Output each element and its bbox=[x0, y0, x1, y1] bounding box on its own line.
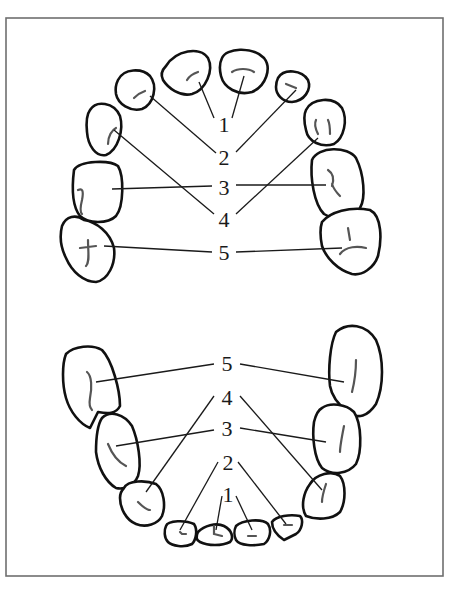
dental-arch-diagram: 1 2 3 4 5 5 4 3 2 1 bbox=[0, 0, 456, 590]
upper-canine-right bbox=[305, 100, 345, 145]
upper-label-4: 4 bbox=[219, 207, 230, 232]
upper-label-1: 1 bbox=[219, 112, 230, 137]
upper-lateral-incisor-left bbox=[116, 70, 155, 109]
upper-central-incisor-right bbox=[220, 50, 268, 93]
upper-second-molar-right bbox=[321, 209, 381, 275]
lower-label-2: 2 bbox=[223, 450, 234, 475]
upper-second-molar-left bbox=[61, 217, 115, 282]
lower-label-1: 1 bbox=[223, 482, 234, 507]
lower-lateral-incisor-right bbox=[272, 515, 302, 540]
lower-lateral-incisor-left bbox=[165, 521, 196, 546]
lower-label-4: 4 bbox=[222, 385, 233, 410]
upper-label-2: 2 bbox=[219, 145, 230, 170]
upper-first-molar-right bbox=[312, 149, 364, 217]
upper-number-labels: 1 2 3 4 5 bbox=[219, 112, 230, 265]
lower-canine-left bbox=[120, 481, 164, 525]
lower-central-incisor-left bbox=[197, 524, 232, 545]
upper-label-3: 3 bbox=[219, 175, 230, 200]
upper-central-incisor-left bbox=[162, 51, 210, 95]
lower-first-molar-right bbox=[313, 405, 360, 473]
lower-canine-right bbox=[303, 473, 344, 518]
lower-first-molar-left bbox=[96, 414, 140, 489]
lower-number-labels: 5 4 3 2 1 bbox=[222, 351, 234, 507]
upper-label-5: 5 bbox=[219, 240, 230, 265]
lower-label-3: 3 bbox=[222, 416, 233, 441]
upper-canine-left bbox=[87, 104, 122, 155]
upper-first-molar-left bbox=[73, 162, 122, 222]
upper-lateral-incisor-right bbox=[276, 71, 309, 102]
lower-label-5: 5 bbox=[222, 351, 233, 376]
lower-second-molar-right bbox=[329, 326, 382, 416]
lower-central-incisor-right bbox=[235, 520, 271, 545]
